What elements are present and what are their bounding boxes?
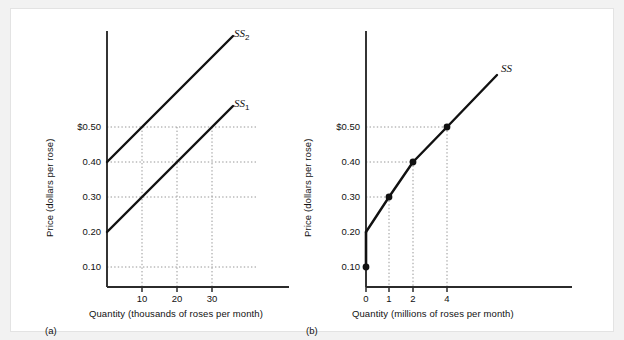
panel-b-plot: [307, 9, 613, 333]
curve-label-ss1-base: SS: [234, 97, 245, 109]
panel-a-y-tick-020: 0.20: [53, 226, 101, 237]
panel-a-gridlines-horizontal: [107, 127, 256, 267]
panel-b-x-tick-2: 2: [398, 293, 428, 304]
supply-curve-ss: [366, 75, 497, 232]
panel-a-x-tick-20: 20: [162, 293, 192, 304]
panel-b-gridlines-horizontal: [366, 127, 447, 197]
panel-b-y-tick-010: 0.10: [311, 261, 360, 272]
panel-a-y-axis-title: Price (dollars per rose): [44, 139, 55, 238]
panel-a-y-tick-050: $0.50: [53, 121, 101, 132]
panel-a-x-tick-30: 30: [197, 293, 227, 304]
data-point-0-010: [363, 264, 370, 271]
panel-a: $0.50 0.40 0.30 0.20 0.10 10 20 30 SS2 S…: [11, 9, 313, 333]
panel-b-y-tick-020: 0.20: [311, 226, 360, 237]
panel-a-caption: (a): [45, 325, 57, 336]
data-point-2-040: [410, 159, 417, 166]
curve-label-ss2: SS2: [234, 27, 249, 42]
panel-a-y-tick-030: 0.30: [53, 191, 101, 202]
figure-frame: $0.50 0.40 0.30 0.20 0.10 10 20 30 SS2 S…: [10, 8, 614, 332]
panel-a-x-tick-10: 10: [127, 293, 157, 304]
panel-b-caption: (b): [306, 325, 318, 336]
data-point-4-050: [444, 124, 451, 131]
panel-b-y-tick-050: $0.50: [311, 121, 360, 132]
supply-curve-ss2: [107, 36, 233, 162]
data-point-1-030: [386, 194, 393, 201]
panel-a-x-axis-title: Quantity (thousands of roses per month): [89, 308, 263, 319]
panel-a-gridlines-vertical: [142, 127, 212, 286]
curve-label-ss1-sub: 1: [245, 103, 249, 112]
panel-b-data-points: [363, 124, 451, 271]
panel-b-x-tick-4: 4: [432, 293, 462, 304]
curve-label-ss-base: SS: [501, 62, 512, 74]
curve-label-ss: SS: [501, 62, 512, 74]
panel-b-gridlines-vertical: [389, 127, 447, 286]
curve-label-ss2-sub: 2: [245, 33, 249, 42]
panel-a-plot: [11, 9, 313, 333]
panel-b: $0.50 0.40 0.30 0.20 0.10 0 1 2 4 SS Pri…: [307, 9, 609, 333]
panel-b-x-axis-title: Quantity (millions of roses per month): [352, 308, 514, 319]
panel-a-y-tick-040: 0.40: [53, 156, 101, 167]
panel-b-y-axis-title: Price (dollars per rose): [302, 139, 313, 238]
panel-a-y-tick-010: 0.10: [53, 261, 101, 272]
curve-label-ss1: SS1: [234, 97, 249, 112]
curve-label-ss2-base: SS: [234, 27, 245, 39]
panel-b-y-tick-040: 0.40: [311, 156, 360, 167]
supply-curve-ss1: [107, 106, 233, 232]
panel-b-y-tick-030: 0.30: [311, 191, 360, 202]
